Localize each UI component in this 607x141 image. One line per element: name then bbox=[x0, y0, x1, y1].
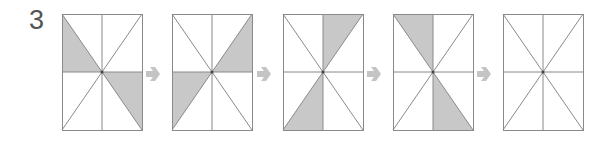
right-arrow-icon bbox=[146, 67, 160, 81]
panel-4 bbox=[393, 14, 474, 131]
panel-2 bbox=[172, 14, 253, 131]
center-dot bbox=[432, 71, 435, 74]
center-dot bbox=[211, 71, 214, 74]
panel-3 bbox=[283, 14, 364, 131]
right-arrow-icon bbox=[477, 67, 491, 81]
panel-5 bbox=[503, 14, 584, 131]
right-arrow-icon bbox=[257, 67, 271, 81]
rotation-sequence-diagram bbox=[0, 0, 607, 141]
right-arrow-icon bbox=[367, 67, 381, 81]
center-dot bbox=[101, 71, 104, 74]
center-dot bbox=[322, 71, 325, 74]
panel-1 bbox=[62, 14, 143, 131]
center-dot bbox=[542, 71, 545, 74]
